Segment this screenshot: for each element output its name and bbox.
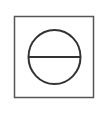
theta-circle-icon <box>29 30 81 84</box>
symbol-canvas <box>0 0 98 129</box>
